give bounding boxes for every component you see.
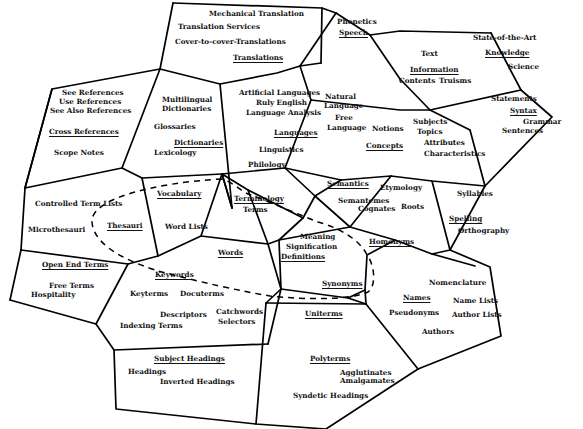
cell-heading-cross-references: Cross References xyxy=(49,128,119,135)
concept-term-free-language-2: Language xyxy=(327,124,366,131)
concept-term-mechanical-translation: Mechanical Translation xyxy=(209,10,304,17)
concept-term-notions: Notions xyxy=(372,125,403,132)
concept-term-text: Text xyxy=(421,50,438,57)
cell-heading-spelling: Spelling xyxy=(449,215,482,222)
cell-heading-synonyms: Synonyms xyxy=(322,280,362,287)
concept-term-terms: Terms xyxy=(243,206,268,213)
concept-term-free-terms: Free Terms xyxy=(49,282,94,289)
cell-heading-knowledge: Knowledge xyxy=(485,49,529,56)
concept-term-natural-language-2: Language xyxy=(324,102,363,109)
concept-term-natural-language-1: Natural xyxy=(325,93,356,100)
cell-edge xyxy=(10,250,21,300)
concept-term-science: Science xyxy=(508,63,539,70)
concept-term-descriptors: Descriptors xyxy=(160,311,207,318)
concept-term-etymology: Etymology xyxy=(380,184,422,191)
concept-term-author-lists: Author Lists xyxy=(452,311,502,318)
cell-edge xyxy=(365,240,395,290)
concept-term-lexicology: Lexicology xyxy=(154,149,197,156)
cell-heading-keywords: Keywords xyxy=(155,271,194,278)
concept-term-meaning: Meaning xyxy=(300,233,335,240)
cell-edge xyxy=(160,66,300,84)
concept-term-artificial-languages: Artificial Languages xyxy=(239,89,320,96)
cell-heading-languages: Languages xyxy=(274,129,318,136)
concept-term-catchwords: Catchwords xyxy=(216,308,263,315)
cell-edge xyxy=(160,3,173,69)
cell-edge xyxy=(268,240,279,244)
concept-term-name-lists: Name Lists xyxy=(453,297,498,304)
concept-term-glossaries: Glossaries xyxy=(154,123,196,130)
cell-heading-concepts: Concepts xyxy=(366,142,403,149)
concept-term-contents: Contents xyxy=(399,77,435,84)
concept-term-sentences: Sentences xyxy=(502,127,543,134)
concept-term-grammar: Grammar xyxy=(523,118,561,125)
concept-term-linguistics: Linguistics xyxy=(259,146,304,153)
concept-term-phonetics: Phonetics xyxy=(337,18,377,25)
concept-map-canvas xyxy=(0,0,583,429)
cell-edge xyxy=(370,35,400,79)
concept-term-selectors: Selectors xyxy=(218,318,255,325)
concept-term-syndetic-headings: Syndetic Headings xyxy=(293,392,368,399)
concept-term-subjects: Subjects xyxy=(413,118,447,125)
cell-heading-terminology: Terminology xyxy=(234,195,284,202)
cell-edge xyxy=(432,181,450,250)
concept-term-free-language-1: Free xyxy=(335,114,353,121)
concept-term-microthesauri: Microthesauri xyxy=(28,226,85,233)
cell-edge xyxy=(285,168,315,196)
concept-term-headings: Headings xyxy=(128,368,166,375)
concept-term-signification: Signification xyxy=(286,243,337,250)
concept-term-syllables: Syllables xyxy=(457,190,493,197)
concept-term-authors: Authors xyxy=(422,328,454,335)
cell-edge xyxy=(300,13,336,66)
cell-heading-information: Information xyxy=(410,66,459,73)
concept-term-roots: Roots xyxy=(401,203,424,210)
concept-term-orthography: Orthography xyxy=(458,227,509,234)
cell-heading-semantics: Semantics xyxy=(327,180,369,187)
cell-heading-homonyms: Homonyms xyxy=(369,238,414,245)
cell-edge xyxy=(470,130,485,186)
cell-heading-open-end-terms: Open End Terms xyxy=(42,261,108,268)
cell-edge xyxy=(300,63,321,66)
concept-term-docuterms: Docuterms xyxy=(180,290,224,297)
cell-edge xyxy=(158,174,222,256)
cell-edge xyxy=(25,168,222,188)
concept-term-pseudonyms: Pseudonyms xyxy=(389,309,439,316)
concept-term-cognates: Cognates xyxy=(358,205,395,212)
cell-heading-vocabulary: Vocabulary xyxy=(157,190,201,197)
cell-heading-polyterms: Polyterms xyxy=(310,355,350,362)
cell-edge xyxy=(485,90,552,186)
concept-term-controlled-term-lists: Controlled Term Lists xyxy=(35,200,122,207)
cell-heading-uniterms: Uniterms xyxy=(305,310,343,317)
concept-term-see-also-references: See Also References xyxy=(50,107,131,114)
concept-term-inverted-headings: Inverted Headings xyxy=(160,378,235,385)
cell-heading-dictionaries: Dictionaries xyxy=(174,139,223,146)
concept-term-multilingual: Multilingual xyxy=(162,96,212,103)
concept-term-cover-to-cover: Cover-to-cover-Translations xyxy=(175,38,286,45)
concept-term-nomenclature: Nomenclature xyxy=(429,279,486,286)
cell-edge xyxy=(21,188,25,250)
concept-term-philology: Philology xyxy=(248,161,286,168)
cell-edge xyxy=(25,89,52,188)
concept-term-attributes: Attributes xyxy=(424,139,465,146)
cell-edge xyxy=(281,289,365,298)
concept-term-ruly-english: Ruly English xyxy=(256,99,307,106)
cell-heading-speech: Speech xyxy=(339,29,368,36)
cell-heading-subject-headings: Subject Headings xyxy=(154,355,225,362)
concept-term-see-references: See References xyxy=(62,89,124,96)
cell-edge xyxy=(256,303,266,424)
cell-heading-words: Words xyxy=(218,249,243,256)
concept-term-topics: Topics xyxy=(417,128,443,135)
concept-term-scope-notes: Scope Notes xyxy=(54,149,104,156)
concept-term-truisms: Truisms xyxy=(439,77,471,84)
concept-term-state-of-the-art: State-of-the-Art xyxy=(473,34,536,41)
concept-term-keyterms: Keyterms xyxy=(130,290,168,297)
concept-term-dictionaries-1: Dictionaries xyxy=(162,105,211,112)
cell-heading-definitions: Definitions xyxy=(281,253,325,260)
cell-heading-names: Names xyxy=(403,294,430,301)
cell-heading-thesauri: Thesauri xyxy=(107,222,143,229)
concept-term-use-references: Use References xyxy=(59,98,121,105)
concept-term-hospitality: Hospitality xyxy=(31,291,75,298)
cell-heading-translations: Translations xyxy=(233,54,283,61)
cell-heading-syntax: Syntax xyxy=(510,107,537,114)
concept-term-statements: Statements xyxy=(491,95,537,102)
concept-term-word-lists: Word Lists xyxy=(165,223,208,230)
